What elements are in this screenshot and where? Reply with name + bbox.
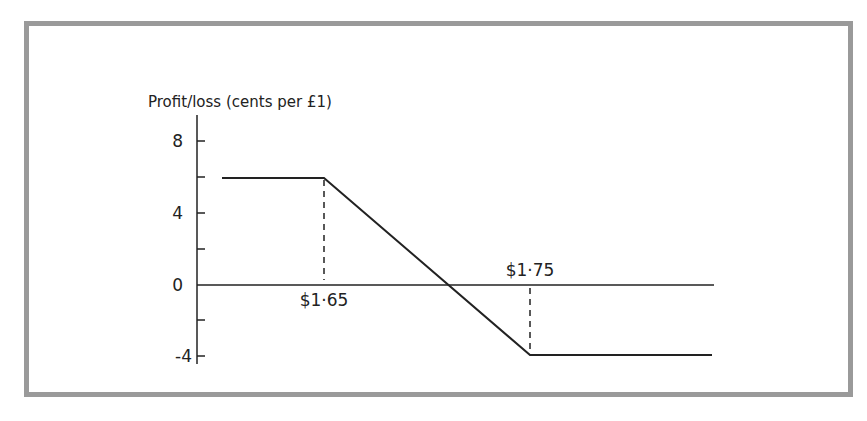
profit-loss-chart: Profit/loss (cents per £1) 8 4 0 -4 $1·6… xyxy=(0,0,867,421)
strike-label-165: $1·65 xyxy=(300,290,349,310)
y-tick-label-minus4: -4 xyxy=(175,346,192,366)
y-tick-label-8: 8 xyxy=(172,131,183,151)
y-tick-label-4: 4 xyxy=(172,203,183,223)
strike-label-175: $1·75 xyxy=(506,260,555,280)
y-tick-label-0: 0 xyxy=(172,275,183,295)
y-axis-label: Profit/loss (cents per £1) xyxy=(148,93,332,111)
payoff-line xyxy=(222,178,712,355)
